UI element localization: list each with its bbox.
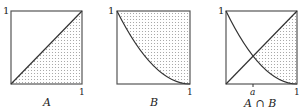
diagram-canvas: 1 1 A 1 1 B 1 a 1 A ∩ B (0, 0, 301, 111)
x-axis-label: 1 (79, 87, 85, 97)
x-axis-label: 1 (294, 87, 300, 97)
a-marker-label: a (250, 87, 255, 97)
panel-caption: B (149, 96, 158, 109)
y-axis-label: 1 (218, 5, 224, 16)
panel-intersection: 1 a 1 A ∩ B (218, 5, 300, 110)
panel-a: 1 1 A (3, 5, 85, 109)
x-axis-label: 1 (187, 87, 193, 97)
panel-caption: A (42, 96, 51, 109)
panel-b: 1 1 B (108, 5, 193, 109)
panel-caption: A ∩ B (243, 97, 276, 110)
shaded-region-b (117, 11, 190, 84)
y-axis-label: 1 (108, 5, 114, 16)
shaded-region-intersection (253, 11, 297, 84)
y-axis-label: 1 (3, 5, 9, 16)
